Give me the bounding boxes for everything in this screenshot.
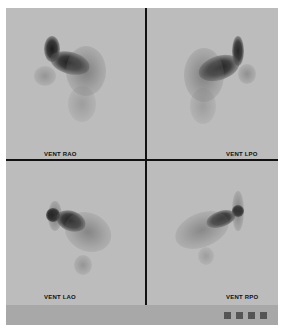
vertical-divider [145,8,147,305]
view-label: VENT LAO [44,294,76,300]
panel-vent-lao: VENT LAO [6,161,145,305]
view-label: VENT RAO [44,151,77,157]
square-indicator-icon [224,312,231,319]
view-label: VENT RPO [226,294,258,300]
bottom-bar [6,305,278,325]
panel-vent-lpo: VENT LPO [146,8,278,159]
panel-vent-rao: VENT RAO [6,8,145,159]
panel-vent-rpo: VENT RPO [146,161,278,305]
scan-frame: VENT RAO VENT LPO VENT LAO VENT RPO [6,8,278,325]
square-indicator-icon [248,312,255,319]
square-indicator-icon [236,312,243,319]
view-label: VENT LPO [226,151,258,157]
horizontal-divider [6,159,278,161]
square-indicator-icon [260,312,267,319]
